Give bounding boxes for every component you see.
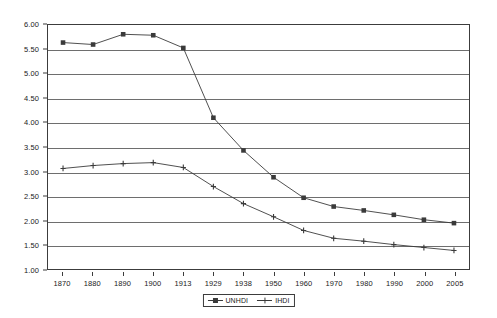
series-unhdi — [61, 32, 457, 225]
data-point — [271, 214, 276, 220]
y-tick-label: 5.00 — [24, 69, 39, 78]
x-tick-mark — [123, 272, 124, 276]
series-line — [63, 163, 454, 251]
x-tick-mark — [304, 272, 305, 276]
x-tick-label: 2000 — [416, 279, 433, 288]
data-point — [301, 228, 306, 234]
y-tick-label: 2.50 — [24, 192, 39, 201]
y-tick-label: 2.00 — [24, 216, 39, 225]
y-tick-label: 1.50 — [24, 241, 39, 250]
x-tick-label: 1960 — [295, 279, 312, 288]
chart-container: 1.001.502.002.503.003.504.004.505.005.50… — [0, 0, 497, 318]
legend-entry-ihdi[interactable]: IHDI — [257, 296, 289, 304]
data-point — [91, 42, 96, 47]
plot-area — [47, 24, 470, 270]
data-point — [361, 238, 366, 244]
y-tick-label: 4.50 — [24, 93, 39, 102]
series-ihdi — [60, 160, 456, 254]
data-point — [421, 245, 426, 251]
x-tick-label: 1913 — [174, 279, 191, 288]
x-tick-label: 1950 — [265, 279, 282, 288]
x-tick-mark — [243, 272, 244, 276]
x-tick-mark — [274, 272, 275, 276]
x-tick-label: 2005 — [446, 279, 463, 288]
data-point — [181, 46, 186, 51]
data-point — [151, 33, 156, 38]
data-point — [451, 248, 456, 254]
y-tick-label: 4.00 — [24, 118, 39, 127]
chart-legend: UNHDIIHDI — [202, 294, 294, 307]
data-point — [271, 175, 276, 180]
legend-key-icon — [257, 296, 272, 304]
y-tick-label: 3.50 — [24, 143, 39, 152]
x-tick-label: 1900 — [144, 279, 161, 288]
x-tick-mark — [213, 272, 214, 276]
legend-key-icon — [207, 296, 222, 304]
x-tick-mark — [334, 272, 335, 276]
data-point — [241, 201, 246, 207]
data-point — [331, 204, 336, 209]
x-tick-label: 1929 — [205, 279, 222, 288]
data-point — [422, 217, 427, 222]
data-point — [91, 163, 96, 169]
x-tick-label: 1938 — [235, 279, 252, 288]
y-tick-label: 1.00 — [24, 266, 39, 275]
data-point — [181, 165, 186, 171]
x-tick-mark — [425, 272, 426, 276]
x-tick-label: 1990 — [386, 279, 403, 288]
data-point — [151, 160, 156, 166]
legend-label: UNHDI — [225, 297, 248, 304]
data-point — [241, 148, 246, 153]
x-tick-mark — [62, 272, 63, 276]
x-tick-label: 1980 — [356, 279, 373, 288]
data-point — [331, 235, 336, 241]
data-point — [211, 115, 216, 120]
data-point — [452, 221, 457, 226]
x-tick-mark — [183, 272, 184, 276]
data-point — [391, 242, 396, 248]
legend-label: IHDI — [275, 297, 289, 304]
data-point — [211, 184, 216, 190]
x-tick-label: 1890 — [114, 279, 131, 288]
data-point — [121, 32, 126, 37]
x-tick-mark — [92, 272, 93, 276]
x-tick-label: 1970 — [325, 279, 342, 288]
data-point — [60, 166, 65, 172]
y-tick-label: 5.50 — [24, 44, 39, 53]
y-axis: 1.001.502.002.503.003.504.004.505.005.50… — [0, 0, 45, 318]
y-tick-label: 3.00 — [24, 167, 39, 176]
legend-entry-unhdi[interactable]: UNHDI — [207, 296, 248, 304]
series-layer — [48, 25, 469, 269]
data-point — [301, 195, 306, 200]
x-tick-mark — [394, 272, 395, 276]
data-point — [361, 208, 366, 213]
y-tick-label: 6.00 — [24, 20, 39, 29]
x-tick-label: 1870 — [54, 279, 71, 288]
x-tick-mark — [153, 272, 154, 276]
data-point — [121, 161, 126, 167]
data-point — [392, 213, 397, 218]
data-point — [61, 40, 66, 45]
series-line — [63, 34, 454, 223]
x-tick-label: 1880 — [84, 279, 101, 288]
x-tick-mark — [364, 272, 365, 276]
x-axis: 1870188018901900191319291938195019601970… — [47, 272, 470, 290]
x-tick-mark — [455, 272, 456, 276]
